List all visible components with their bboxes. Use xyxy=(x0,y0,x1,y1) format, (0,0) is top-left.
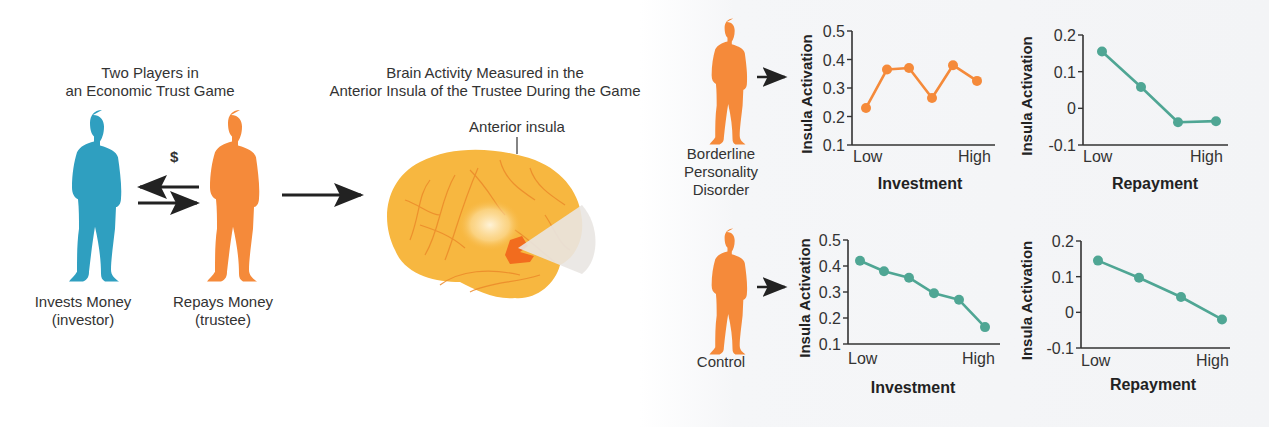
y-tick-label: 0.2 xyxy=(1052,233,1074,250)
x-tick-high: High xyxy=(1190,148,1223,165)
data-point xyxy=(1176,292,1186,302)
data-point xyxy=(904,63,914,73)
data-point xyxy=(954,295,964,305)
charts-layer: 0.10.20.30.40.5LowHighInvestmentInsula A… xyxy=(0,0,1269,427)
data-point xyxy=(927,93,937,103)
y-tick-label: 0 xyxy=(1065,304,1074,321)
data-point xyxy=(1136,82,1146,92)
y-axis-title: Insula Activation xyxy=(796,238,813,357)
y-axis-title: Insula Activation xyxy=(798,34,815,153)
y-tick-label: 0.1 xyxy=(1052,269,1074,286)
bpd-repayment-chart: -0.100.10.2LowHighRepaymentInsula Activa… xyxy=(1018,27,1228,192)
y-tick-label: 0.4 xyxy=(819,258,841,275)
data-point xyxy=(1211,116,1221,126)
x-tick-high: High xyxy=(962,350,995,367)
x-tick-low: Low xyxy=(1081,352,1111,369)
y-tick-label: -0.1 xyxy=(1048,137,1076,154)
x-tick-high: High xyxy=(958,148,991,165)
data-point xyxy=(879,266,889,276)
y-tick-label: 0.3 xyxy=(823,80,845,97)
data-point xyxy=(948,60,958,70)
data-point xyxy=(882,64,892,74)
data-point xyxy=(972,76,982,86)
data-point xyxy=(1097,47,1107,57)
y-tick-label: 0.5 xyxy=(819,232,841,249)
y-tick-label: 0.5 xyxy=(823,23,845,40)
x-axis-title: Repayment xyxy=(1110,376,1197,393)
y-tick-label: 0.4 xyxy=(823,52,845,69)
data-point xyxy=(1217,314,1227,324)
x-tick-low: Low xyxy=(848,350,878,367)
data-line xyxy=(860,261,985,327)
y-axis-title: Insula Activation xyxy=(1018,36,1035,155)
y-tick-label: 0.3 xyxy=(819,284,841,301)
data-line xyxy=(1102,52,1216,123)
data-point xyxy=(1134,273,1144,283)
data-point xyxy=(855,256,865,266)
y-tick-label: -0.1 xyxy=(1046,340,1074,357)
y-tick-label: 0.1 xyxy=(1054,64,1076,81)
data-point xyxy=(904,273,914,283)
x-axis-title: Investment xyxy=(878,175,963,192)
y-tick-label: 0.2 xyxy=(1054,27,1076,44)
y-tick-label: 0.1 xyxy=(823,137,845,154)
x-axis-title: Repayment xyxy=(1112,175,1199,192)
data-point xyxy=(1173,117,1183,127)
bpd-investment-chart: 0.10.20.30.40.5LowHighInvestmentInsula A… xyxy=(798,23,995,192)
data-point xyxy=(1093,256,1103,266)
y-tick-label: 0.2 xyxy=(823,109,845,126)
x-tick-low: Low xyxy=(853,148,883,165)
data-point xyxy=(929,288,939,298)
x-axis-title: Investment xyxy=(871,379,956,396)
y-tick-label: 0.2 xyxy=(819,310,841,327)
y-axis-title: Insula Activation xyxy=(1018,241,1035,360)
data-point xyxy=(980,322,990,332)
data-point xyxy=(861,103,871,113)
control-repayment-chart: -0.100.10.2LowHighRepaymentInsula Activa… xyxy=(1018,233,1230,393)
control-investment-chart: 0.10.20.30.40.5LowHighInvestmentInsula A… xyxy=(796,232,1000,396)
data-line xyxy=(1098,261,1222,320)
y-tick-label: 0 xyxy=(1067,100,1076,117)
x-tick-high: High xyxy=(1196,352,1229,369)
x-tick-low: Low xyxy=(1083,148,1113,165)
y-tick-label: 0.1 xyxy=(819,336,841,353)
